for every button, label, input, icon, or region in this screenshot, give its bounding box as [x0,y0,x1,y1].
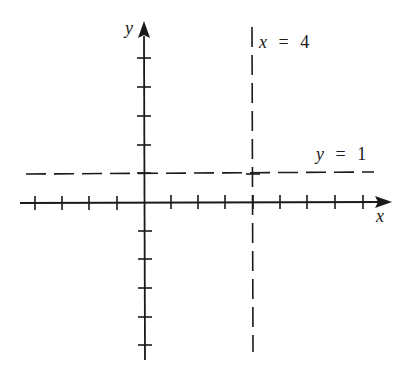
x-equals-4-label: x = 4 [258,32,309,52]
y-axis-arrow-icon [138,21,150,38]
line-x-equals-4: x = 4 [246,27,309,352]
coordinate-plane: x y x = 4 y = [0,0,403,383]
x-axis: x [20,195,392,226]
y-equals-1-label: y = 1 [314,144,366,164]
y-axis: y [123,18,152,360]
line-y-equals-1: y = 1 [26,144,374,174]
x-axis-label: x [375,206,384,226]
y-axis-label: y [123,18,133,38]
